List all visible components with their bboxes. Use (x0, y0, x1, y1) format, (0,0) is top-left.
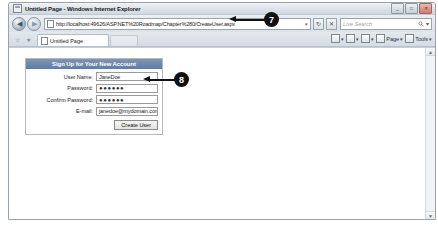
forward-button[interactable]: ▶ (27, 17, 41, 31)
feeds-icon (346, 34, 355, 43)
back-button[interactable]: ◀ (12, 17, 26, 31)
command-home[interactable]: ▾ (331, 34, 344, 43)
form-header: Sign Up for Your New Account (26, 59, 162, 69)
title-bar: Untitled Page - Windows Internet Explore… (9, 3, 435, 15)
print-caret-icon[interactable]: ▾ (371, 36, 374, 42)
callout-8-arrowhead (143, 76, 150, 82)
command-page[interactable]: Page ▾ (376, 34, 403, 43)
command-feeds[interactable]: ▾ (346, 34, 359, 43)
confirm-password-input[interactable]: ●●●●●● (96, 95, 158, 104)
search-icon[interactable]: ▾ (418, 20, 429, 27)
form-row: E-mail: janedoe@mydomain.com (30, 107, 158, 116)
add-favorites-icon[interactable]: ☆ (13, 35, 21, 43)
tab-bar: ☆ ★ Untitled Page ▾ ▾ ▾ Page ▾ (9, 32, 435, 47)
scroll-down-button[interactable]: ▼ (426, 211, 435, 219)
home-icon (331, 34, 340, 43)
password-input[interactable]: ●●●●●● (96, 84, 158, 93)
email-label: E-mail: (76, 108, 96, 114)
createuser-form: Sign Up for Your New Account User Name: … (25, 58, 163, 135)
command-print[interactable]: ▾ (361, 34, 374, 43)
magnifier-glyph (418, 21, 424, 27)
browser-window: Untitled Page - Windows Internet Explore… (8, 2, 436, 220)
content-scrollbar[interactable]: ▲ ▼ (425, 48, 435, 219)
refresh-icon[interactable]: ↻ (313, 18, 324, 30)
form-body: User Name: JaneDoe Password: ●●●●●● Conf… (26, 69, 162, 134)
callout-marker-7: 7 (264, 12, 279, 27)
form-row: Password: ●●●●●● (30, 84, 158, 93)
tab-label: Untitled Page (50, 38, 83, 44)
gear-icon (405, 34, 414, 43)
tools-menu-label: Tools (415, 36, 428, 42)
maximize-button[interactable]: □ (405, 3, 418, 14)
callout-8-line (150, 79, 176, 80)
form-row: Confirm Password: ●●●●●● (30, 95, 158, 104)
address-page-icon (47, 20, 54, 28)
minimize-button[interactable]: _ (391, 3, 404, 14)
callout-7-line (236, 19, 266, 20)
search-placeholder: Live Search (343, 21, 372, 27)
callout-marker-8: 8 (174, 72, 189, 87)
page-menu-label: Page (386, 36, 399, 42)
feeds-caret-icon[interactable]: ▾ (356, 36, 359, 42)
page-menu-icon (376, 34, 385, 43)
page-content: Sign Up for Your New Account User Name: … (9, 47, 435, 219)
email-input[interactable]: janedoe@mydomain.com (96, 107, 158, 116)
tab-untitled-page[interactable]: Untitled Page (37, 34, 109, 46)
new-tab-button[interactable] (110, 35, 138, 46)
submit-row: Create User (30, 118, 158, 130)
command-bar: ▾ ▾ ▾ Page ▾ Tools ▾ (331, 34, 432, 46)
close-button[interactable]: ✕ (419, 3, 432, 14)
window-page-icon (13, 4, 22, 13)
print-icon (361, 34, 370, 43)
search-dropdown-icon[interactable]: ▾ (426, 20, 429, 27)
create-user-button[interactable]: Create User (114, 120, 158, 130)
address-url-text: http://localhost:49626/ASP.NET%20Roadmap… (56, 21, 235, 27)
tab-page-icon (41, 37, 48, 45)
form-row: User Name: JaneDoe (30, 72, 158, 81)
page-caret-icon[interactable]: ▾ (400, 36, 403, 42)
password-label: Password: (67, 85, 96, 91)
favorites-center-icon[interactable]: ★ (24, 35, 32, 43)
tools-caret-icon[interactable]: ▾ (429, 36, 432, 42)
command-tools[interactable]: Tools ▾ (405, 34, 432, 43)
home-caret-icon[interactable]: ▾ (341, 36, 344, 42)
scroll-up-button[interactable]: ▲ (426, 48, 435, 56)
stop-icon[interactable]: ✕ (326, 18, 337, 30)
navigation-bar: ◀ ▶ http://localhost:49626/ASP.NET%20Roa… (9, 15, 435, 32)
window-title: Untitled Page - Windows Internet Explore… (25, 6, 141, 12)
confirm-password-label: Confirm Password: (47, 97, 96, 103)
search-input[interactable]: Live Search ▾ (340, 18, 432, 30)
callout-7-arrowhead (229, 16, 236, 22)
chevron-down-icon[interactable]: ▾ (302, 21, 308, 27)
user-name-label: User Name: (64, 74, 96, 80)
window-controls: _ □ ✕ (391, 3, 433, 14)
